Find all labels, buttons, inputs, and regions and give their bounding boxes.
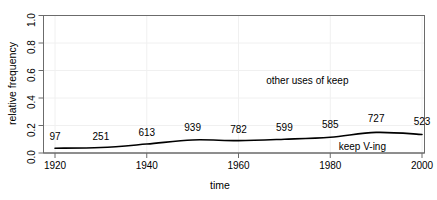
x-tick-label: 1980 bbox=[319, 160, 341, 171]
y-tick-label: 0.8 bbox=[26, 40, 37, 54]
chart-figure: relative frequency time 1920194019601980… bbox=[0, 0, 437, 200]
annotation-other-uses-of-keep: other uses of keep bbox=[266, 75, 348, 86]
count-label: 599 bbox=[276, 122, 293, 133]
count-label: 585 bbox=[322, 119, 339, 130]
y-tick-label: 0.6 bbox=[26, 68, 37, 82]
count-label: 97 bbox=[49, 131, 60, 142]
count-label: 613 bbox=[138, 127, 155, 138]
count-label: 523 bbox=[414, 116, 431, 127]
y-axis-title: relative frequency bbox=[6, 42, 18, 125]
x-tick-label: 2000 bbox=[411, 160, 433, 171]
count-label: 782 bbox=[230, 124, 247, 135]
x-tick-label: 1940 bbox=[136, 160, 158, 171]
count-label: 727 bbox=[368, 113, 385, 124]
x-tick-label: 1920 bbox=[44, 160, 66, 171]
y-tick-label: 1.0 bbox=[26, 13, 37, 27]
y-tick-label: 0.2 bbox=[26, 123, 37, 137]
count-label: 939 bbox=[184, 122, 201, 133]
y-tick-label: 0.0 bbox=[26, 150, 37, 164]
x-tick-label: 1960 bbox=[227, 160, 249, 171]
y-tick-label: 0.4 bbox=[26, 95, 37, 109]
x-axis-title: time bbox=[210, 179, 230, 191]
annotation-keep-v-ing: keep V-ing bbox=[339, 141, 386, 152]
count-label: 251 bbox=[93, 131, 110, 142]
